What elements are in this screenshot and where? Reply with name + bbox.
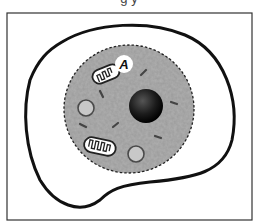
cell-diagram: A <box>0 0 258 224</box>
label-a: A <box>115 55 133 73</box>
vacuole <box>78 100 94 116</box>
nucleus <box>129 89 163 123</box>
label-a-text: A <box>118 57 128 72</box>
vacuole <box>128 146 144 162</box>
